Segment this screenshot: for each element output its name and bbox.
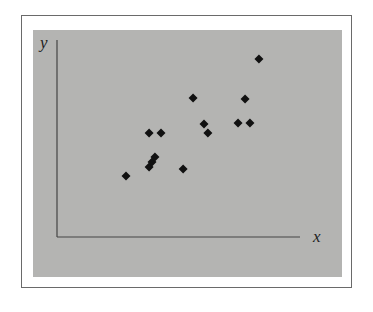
data-point bbox=[157, 128, 166, 137]
data-point bbox=[241, 94, 250, 103]
data-point bbox=[203, 128, 212, 137]
data-point bbox=[254, 54, 263, 63]
x-axis-label: x bbox=[313, 227, 321, 247]
data-point bbox=[189, 93, 198, 102]
data-point bbox=[200, 119, 209, 128]
data-point bbox=[145, 128, 154, 137]
data-point bbox=[245, 118, 254, 127]
y-axis-label: y bbox=[40, 33, 48, 53]
data-points bbox=[122, 54, 264, 180]
scatter-plot bbox=[0, 0, 373, 312]
data-point bbox=[234, 118, 243, 127]
data-point bbox=[179, 165, 188, 174]
data-point bbox=[122, 171, 131, 180]
